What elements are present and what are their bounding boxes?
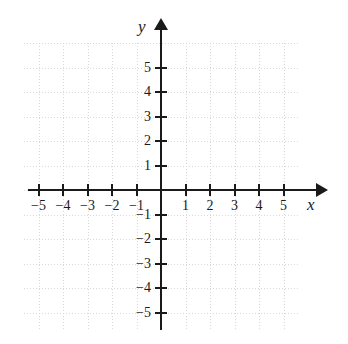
x-axis-tick bbox=[258, 184, 260, 196]
y-axis-tick-label: −5 bbox=[125, 306, 151, 320]
y-axis-tick bbox=[155, 312, 167, 314]
x-axis-tick bbox=[38, 184, 40, 196]
y-axis-tick-label: 2 bbox=[125, 134, 151, 148]
x-axis-tick bbox=[111, 184, 113, 196]
x-axis-tick bbox=[136, 184, 138, 196]
gridline-horizontal bbox=[24, 43, 300, 44]
y-axis-label: y bbox=[138, 18, 146, 35]
x-axis-tick bbox=[209, 184, 211, 196]
y-axis-tick bbox=[155, 263, 167, 265]
coordinate-plane: −5−4−3−2−11234554321−1−2−3−4−5 x y bbox=[0, 0, 348, 344]
x-axis-tick-label: 2 bbox=[197, 199, 223, 213]
x-axis-tick bbox=[234, 184, 236, 196]
y-axis-arrow-icon bbox=[154, 18, 168, 30]
y-axis-tick-label: −2 bbox=[125, 232, 151, 246]
x-axis-tick-label: −4 bbox=[50, 199, 76, 213]
y-axis-tick-label: −3 bbox=[125, 257, 151, 271]
x-axis-tick-label: −2 bbox=[99, 199, 125, 213]
x-axis-tick bbox=[87, 184, 89, 196]
y-axis-tick-label: −4 bbox=[125, 281, 151, 295]
x-axis-label: x bbox=[307, 196, 315, 213]
y-axis-tick bbox=[155, 116, 167, 118]
y-axis-tick-label: 3 bbox=[125, 110, 151, 124]
x-axis-line bbox=[28, 189, 318, 191]
x-axis-tick-label: 4 bbox=[246, 199, 272, 213]
x-axis-tick-label: −3 bbox=[75, 199, 101, 213]
y-axis-tick bbox=[155, 214, 167, 216]
x-axis-tick bbox=[283, 184, 285, 196]
y-axis-tick bbox=[155, 91, 167, 93]
x-axis-tick-label: 5 bbox=[271, 199, 297, 213]
x-axis-arrow-icon bbox=[316, 183, 328, 197]
x-axis-tick-label: 3 bbox=[222, 199, 248, 213]
x-axis-tick bbox=[185, 184, 187, 196]
x-axis-tick bbox=[62, 184, 64, 196]
y-axis-tick-label: −1 bbox=[125, 208, 151, 222]
x-axis-tick-label: 1 bbox=[173, 199, 199, 213]
y-axis-tick-label: 4 bbox=[125, 85, 151, 99]
y-axis-tick bbox=[155, 165, 167, 167]
y-axis-tick-label: 1 bbox=[125, 159, 151, 173]
y-axis-line bbox=[160, 28, 162, 330]
y-axis-tick bbox=[155, 238, 167, 240]
y-axis-tick bbox=[155, 287, 167, 289]
y-axis-tick bbox=[155, 140, 167, 142]
x-axis-tick-label: −5 bbox=[26, 199, 52, 213]
y-axis-tick bbox=[155, 67, 167, 69]
y-axis-tick-label: 5 bbox=[125, 61, 151, 75]
